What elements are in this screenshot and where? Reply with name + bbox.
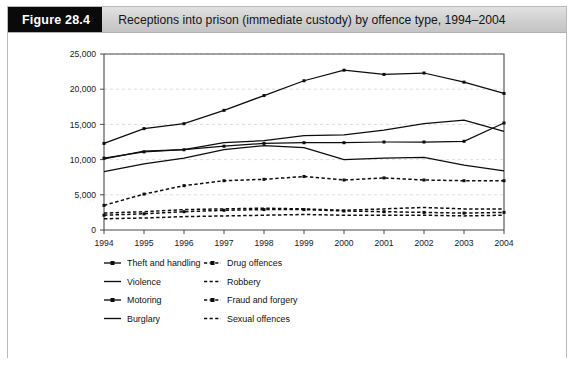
y-axis-tick-label: 10,000 (70, 155, 97, 165)
data-point-marker (303, 141, 306, 144)
y-axis-tick-label: 0 (91, 225, 96, 235)
data-point-marker (463, 212, 466, 215)
chart-area: 05,00010,00015,00020,00025,000 199419951… (8, 33, 566, 358)
y-axis-tick-label: 25,000 (70, 49, 97, 59)
gridlines-group (104, 54, 504, 195)
data-point-marker (503, 121, 506, 124)
data-point-marker (143, 193, 146, 196)
x-axis-tick-label: 2004 (494, 238, 513, 248)
data-point-marker (423, 72, 426, 75)
data-point-marker (263, 178, 266, 181)
legend-marker (111, 261, 115, 265)
x-axis-tick-label: 2002 (414, 238, 433, 248)
figure-number-tag: Figure 28.4 (8, 7, 102, 32)
x-axis-tick-label: 2000 (334, 238, 353, 248)
data-point-marker (463, 179, 466, 182)
data-point-marker (223, 109, 226, 112)
y-axis-ticks-group: 05,00010,00015,00020,00025,000 (70, 49, 104, 235)
data-point-marker (423, 179, 426, 182)
data-point-marker (183, 122, 186, 125)
series-line-motoring (104, 123, 504, 158)
legend-label-robbery: Robbery (227, 277, 261, 287)
legend-label-motoring: Motoring (127, 295, 162, 305)
x-axis-ticks-group: 1994199519961997199819992000200120022003… (94, 230, 513, 248)
data-point-marker (463, 140, 466, 143)
data-point-marker (383, 210, 386, 213)
data-point-marker (103, 142, 106, 145)
legend-label-sexual-offences: Sexual offences (227, 314, 291, 324)
data-point-marker (263, 142, 266, 145)
series-line-burglary (104, 146, 504, 172)
data-point-marker (143, 127, 146, 130)
x-axis-tick-label: 1994 (94, 238, 113, 248)
x-axis-tick-label: 2003 (454, 238, 473, 248)
data-series-group (103, 69, 506, 219)
data-point-marker (263, 208, 266, 211)
line-chart: 05,00010,00015,00020,00025,000 199419951… (8, 33, 566, 356)
data-point-marker (183, 148, 186, 151)
data-point-marker (303, 175, 306, 178)
x-axis-tick-label: 1999 (294, 238, 313, 248)
data-point-marker (223, 145, 226, 148)
data-point-marker (503, 211, 506, 214)
data-point-marker (303, 79, 306, 82)
data-point-marker (143, 212, 146, 215)
series-line-drug-offences (104, 177, 504, 206)
data-point-marker (143, 150, 146, 153)
data-point-marker (223, 179, 226, 182)
legend-label-fraud-and-forgery: Fraud and forgery (227, 295, 298, 305)
legend-label-burglary: Burglary (127, 314, 161, 324)
legend-label-theft-and-handling: Theft and handling (127, 258, 201, 268)
x-axis-tick-label: 1996 (174, 238, 193, 248)
x-axis-tick-label: 1997 (214, 238, 233, 248)
series-line-sexual-offences (104, 215, 504, 219)
data-point-marker (383, 141, 386, 144)
data-point-marker (343, 179, 346, 182)
data-point-marker (463, 81, 466, 84)
y-axis-tick-label: 5,000 (74, 190, 96, 200)
x-axis-tick-label: 2001 (374, 238, 393, 248)
data-point-marker (383, 176, 386, 179)
data-point-marker (103, 214, 106, 217)
data-point-marker (343, 209, 346, 212)
legend-marker (211, 298, 215, 302)
figure-caption: Receptions into prison (immediate custod… (102, 7, 505, 32)
data-point-marker (423, 141, 426, 144)
data-point-marker (343, 69, 346, 72)
data-point-marker (303, 208, 306, 211)
chart-legend: Theft and handlingViolenceMotoringBurgla… (104, 258, 298, 324)
data-point-marker (423, 211, 426, 214)
y-axis-tick-label: 15,000 (70, 120, 97, 130)
data-point-marker (383, 73, 386, 76)
data-point-marker (263, 94, 266, 97)
figure-header: Figure 28.4 Receptions into prison (imme… (8, 7, 566, 33)
data-point-marker (103, 157, 106, 160)
legend-marker (111, 298, 115, 302)
legend-marker (211, 261, 215, 265)
x-axis-tick-label: 1998 (254, 238, 273, 248)
data-point-marker (343, 141, 346, 144)
data-point-marker (183, 210, 186, 213)
legend-label-drug-offences: Drug offences (227, 258, 283, 268)
data-point-marker (103, 204, 106, 207)
data-point-marker (503, 92, 506, 95)
legend-label-violence: Violence (127, 277, 161, 287)
y-axis-tick-label: 20,000 (70, 84, 97, 94)
x-axis-tick-label: 1995 (134, 238, 153, 248)
data-point-marker (223, 209, 226, 212)
figure-card: Figure 28.4 Receptions into prison (imme… (7, 6, 567, 358)
data-point-marker (503, 179, 506, 182)
data-point-marker (183, 184, 186, 187)
